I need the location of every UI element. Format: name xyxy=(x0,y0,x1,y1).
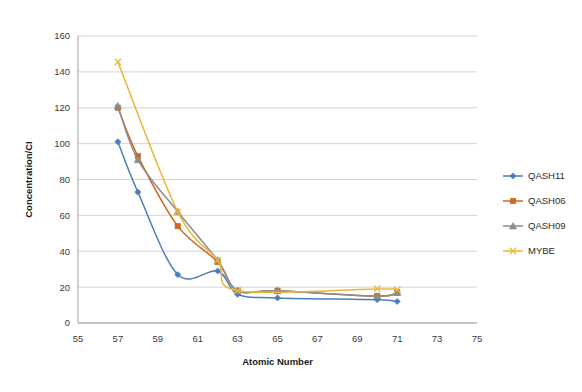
data-point-marker xyxy=(274,295,280,301)
legend-item-qash06[interactable]: QASH06 xyxy=(503,195,566,206)
series-qash09 xyxy=(114,102,401,299)
x-tick-label-75: 75 xyxy=(472,333,483,344)
y-tick-label-0: 0 xyxy=(65,317,70,328)
legend-label-qash06: QASH06 xyxy=(528,195,566,206)
x-tick-label-73: 73 xyxy=(432,333,443,344)
series-line-qash09 xyxy=(118,106,397,296)
series-line-qash11 xyxy=(118,142,397,302)
y-axis-title: Concentration/CI xyxy=(23,141,34,218)
y-tick-labels-group: 020406080100120140160 xyxy=(54,30,70,328)
x-tick-label-67: 67 xyxy=(312,333,323,344)
legend-item-qash09[interactable]: QASH09 xyxy=(503,220,566,231)
x-tick-label-69: 69 xyxy=(352,333,363,344)
legend-label-qash09: QASH09 xyxy=(528,220,566,231)
x-tick-label-65: 65 xyxy=(272,333,283,344)
x-tick-label-63: 63 xyxy=(232,333,243,344)
x-tick-label-59: 59 xyxy=(153,333,164,344)
x-tick-label-61: 61 xyxy=(192,333,203,344)
y-tick-label-20: 20 xyxy=(59,282,70,293)
x-tick-label-57: 57 xyxy=(113,333,124,344)
y-tick-label-60: 60 xyxy=(59,210,70,221)
series-mybe xyxy=(115,59,401,294)
x-tick-label-71: 71 xyxy=(392,333,403,344)
x-tick-labels-group: 5557596163656769717375 xyxy=(73,333,483,344)
y-tick-label-80: 80 xyxy=(59,174,70,185)
data-point-marker xyxy=(215,268,221,274)
legend-label-mybe: MYBE xyxy=(528,245,555,256)
y-tick-label-120: 120 xyxy=(54,102,70,113)
data-point-marker xyxy=(135,189,141,195)
series-group xyxy=(114,59,401,305)
legend-label-qash11: QASH11 xyxy=(528,170,565,181)
gridlines-group xyxy=(78,36,477,323)
y-tick-label-100: 100 xyxy=(54,138,70,149)
data-point-marker xyxy=(510,173,516,179)
series-line-qash06 xyxy=(118,108,397,296)
legend-group[interactable]: QASH11QASH06QASH09MYBE xyxy=(503,170,566,256)
data-point-marker xyxy=(175,223,180,228)
data-point-marker xyxy=(510,198,515,203)
line-chart-plot: 020406080100120140160 555759616365676971… xyxy=(0,0,582,392)
data-point-marker xyxy=(394,298,400,304)
series-line-mybe xyxy=(118,62,397,292)
x-tick-label-55: 55 xyxy=(73,333,84,344)
x-axis-title: Atomic Number xyxy=(242,356,313,367)
y-tick-label-140: 140 xyxy=(54,66,70,77)
series-qash06 xyxy=(115,105,400,299)
legend-item-mybe[interactable]: MYBE xyxy=(503,245,555,256)
y-tick-label-160: 160 xyxy=(54,30,70,41)
legend-item-qash11[interactable]: QASH11 xyxy=(503,170,565,181)
y-tick-label-40: 40 xyxy=(59,246,70,257)
chart-container: 020406080100120140160 555759616365676971… xyxy=(0,0,582,392)
